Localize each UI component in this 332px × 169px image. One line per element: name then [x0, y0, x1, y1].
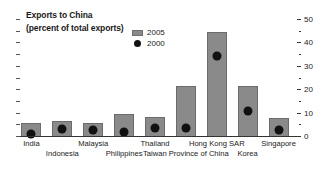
axis-tick-label-20: 20	[304, 85, 313, 94]
left-tick-0	[16, 136, 20, 137]
axis-tick-label-40: 40	[304, 38, 313, 47]
left-tick-5	[16, 124, 20, 125]
category-label-india: India	[23, 139, 39, 148]
axis-tick-label-10: 10	[304, 108, 313, 117]
exports-to-china-chart: Exports to China (percent of total expor…	[0, 0, 332, 169]
category-axis-labels: IndiaIndonesiaMalaysiaPhilippinesThailan…	[0, 138, 332, 168]
axis-tick-major-50	[297, 19, 301, 20]
axis-tick-label-30: 30	[304, 61, 313, 70]
axis-tick-minor-25	[299, 78, 301, 79]
category-label-malaysia: Malaysia	[78, 139, 108, 148]
plot-area	[16, 10, 294, 137]
point-thailand	[151, 123, 160, 132]
axis-tick-major-20	[297, 89, 301, 90]
axis-baseline	[16, 136, 297, 137]
point-singapore	[274, 125, 283, 134]
axis-tick-label-50: 50	[304, 15, 313, 24]
left-tick-25	[16, 78, 20, 79]
axis-tick-minor-35	[299, 54, 301, 55]
axis-tick-major-40	[297, 42, 301, 43]
point-taiwan-province-of-china	[181, 123, 190, 132]
left-tick-40	[16, 42, 20, 43]
left-tick-30	[16, 66, 20, 67]
axis-tick-minor-5	[299, 124, 301, 125]
axis-tick-minor-45	[299, 31, 301, 32]
left-tick-15	[16, 101, 20, 102]
left-tick-45	[16, 31, 20, 32]
point-malaysia	[89, 125, 98, 134]
category-label-thailand: Thailand	[140, 139, 169, 148]
category-label-hong-kong-sar: Hong Kong SAR	[189, 139, 245, 148]
category-label-philippines: Philippines	[106, 149, 143, 158]
category-label-singapore: Singapore	[261, 139, 296, 148]
category-label-taiwan-province-of-china: Taiwan Province of China	[143, 149, 229, 158]
left-tick-20	[16, 89, 20, 90]
left-tick-50	[16, 19, 20, 20]
axis-tick-major-0	[297, 136, 301, 137]
category-label-indonesia: Indonesia	[46, 149, 79, 158]
left-tick-35	[16, 54, 20, 55]
left-tick-10	[16, 113, 20, 114]
point-indonesia	[58, 124, 67, 133]
category-label-korea: Korea	[238, 149, 258, 158]
axis-tick-major-10	[297, 113, 301, 114]
point-korea	[243, 107, 252, 116]
axis-tick-minor-15	[299, 101, 301, 102]
bars-layer	[16, 10, 294, 137]
point-hong-kong-sar	[212, 52, 221, 61]
axis-tick-major-30	[297, 66, 301, 67]
bar-hong-kong-sar	[207, 32, 227, 137]
